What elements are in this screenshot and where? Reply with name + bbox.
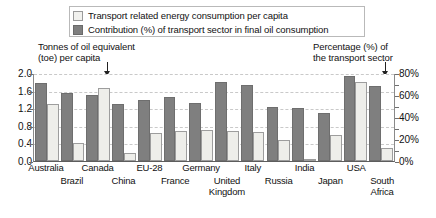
y2-axis-tick-0: 0% bbox=[399, 157, 413, 167]
bar-energy-per-capita bbox=[278, 140, 290, 161]
left-axis-caption-line1: Tonnes of oil equivalent bbox=[38, 41, 135, 52]
y2-tickmark bbox=[395, 96, 399, 97]
y2-axis-tick-80: 80% bbox=[399, 69, 419, 79]
bar-group bbox=[188, 74, 214, 161]
bar-chart: Transport related energy consumption per… bbox=[0, 0, 436, 218]
bar-group bbox=[60, 74, 86, 161]
bar-energy-per-capita bbox=[330, 135, 342, 161]
y2-tickmark bbox=[395, 85, 399, 86]
bar-transport-contribution bbox=[292, 108, 304, 161]
bar-group bbox=[34, 74, 60, 161]
left-axis-caption: Tonnes of oil equivalent (toe) per capit… bbox=[38, 41, 135, 63]
chart-legend: Transport related energy consumption per… bbox=[69, 6, 365, 37]
right-axis-caption: Percentage (%) of the transport sector bbox=[313, 41, 393, 63]
legend-item-transport-contribution: Contribution (%) of transport sector in … bbox=[73, 23, 361, 36]
y2-axis-tick-40: 40% bbox=[399, 113, 419, 123]
bar-transport-contribution bbox=[189, 103, 201, 161]
legend-label-transport-contribution: Contribution (%) of transport sector in … bbox=[88, 25, 329, 35]
bar-energy-per-capita bbox=[98, 88, 110, 162]
bar-series-container bbox=[34, 74, 394, 161]
y2-tickmark bbox=[395, 74, 399, 75]
bar-transport-contribution bbox=[112, 104, 124, 161]
bar-energy-per-capita bbox=[304, 159, 316, 161]
bar-group bbox=[368, 74, 394, 161]
bar-transport-contribution bbox=[86, 95, 98, 161]
bar-energy-per-capita bbox=[175, 131, 187, 161]
x-axis-label-usa: USA bbox=[316, 163, 396, 174]
y2-tickmark bbox=[395, 118, 399, 119]
bar-energy-per-capita bbox=[47, 104, 59, 161]
y2-tickmark bbox=[395, 151, 399, 152]
bar-group bbox=[343, 74, 369, 161]
bar-transport-contribution bbox=[369, 86, 381, 161]
bar-group bbox=[265, 74, 291, 161]
legend-swatch-light-icon bbox=[73, 11, 83, 21]
bar-group bbox=[111, 74, 137, 161]
bar-energy-per-capita bbox=[73, 143, 85, 161]
x-axis-label-south-africa: SouthAfrica bbox=[342, 176, 422, 197]
bar-group bbox=[317, 74, 343, 161]
bar-transport-contribution bbox=[138, 100, 150, 161]
plot-area bbox=[33, 74, 395, 162]
y2-axis-tick-60: 60% bbox=[399, 91, 419, 101]
y2-tickmark bbox=[395, 140, 399, 141]
bar-transport-contribution bbox=[267, 107, 279, 161]
bar-energy-per-capita bbox=[201, 130, 213, 161]
bar-transport-contribution bbox=[35, 83, 47, 161]
y2-tickmark bbox=[395, 129, 399, 130]
bar-group bbox=[85, 74, 111, 161]
bar-energy-per-capita bbox=[355, 82, 367, 161]
left-axis-caption-line2: (toe) per capita bbox=[38, 52, 135, 63]
right-axis-caption-line1: Percentage (%) of bbox=[313, 41, 393, 52]
bar-transport-contribution bbox=[344, 76, 356, 161]
y2-axis-tick-20: 20% bbox=[399, 135, 419, 145]
bar-transport-contribution bbox=[318, 113, 330, 161]
bar-group bbox=[137, 74, 163, 161]
bar-transport-contribution bbox=[215, 82, 227, 161]
bar-energy-per-capita bbox=[227, 131, 239, 161]
bar-energy-per-capita bbox=[381, 148, 393, 161]
bar-energy-per-capita bbox=[124, 153, 136, 161]
bar-transport-contribution bbox=[61, 93, 73, 162]
legend-swatch-dark-icon bbox=[73, 25, 83, 35]
bar-group bbox=[163, 74, 189, 161]
bar-transport-contribution bbox=[164, 97, 176, 161]
x-axis-labels: AustraliaBrazilCanadaChinaEU-28FranceGer… bbox=[33, 163, 395, 218]
bar-energy-per-capita bbox=[150, 133, 162, 161]
bar-transport-contribution bbox=[241, 85, 253, 161]
bar-energy-per-capita bbox=[253, 132, 265, 161]
bar-group bbox=[291, 74, 317, 161]
bar-group bbox=[214, 74, 240, 161]
bar-group bbox=[240, 74, 266, 161]
legend-label-energy-per-capita: Transport related energy consumption per… bbox=[88, 11, 288, 21]
legend-item-energy-per-capita: Transport related energy consumption per… bbox=[73, 9, 361, 22]
y2-tickmark bbox=[395, 107, 399, 108]
